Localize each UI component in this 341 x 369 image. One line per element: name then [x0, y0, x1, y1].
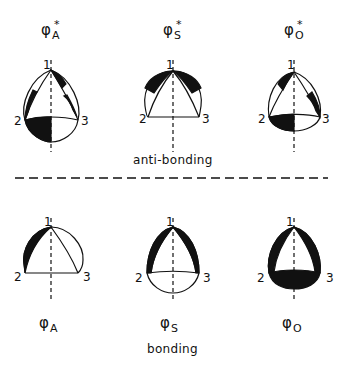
- orbital-shape-phi-A-star: [24, 60, 79, 152]
- orbital-shape-phi-A: [24, 218, 83, 300]
- orbital-shape-phi-S: [147, 218, 199, 302]
- orbital-shape-phi-S-star: [145, 60, 202, 152]
- orbital-shape-phi-O-star: [268, 60, 320, 152]
- orbital-shape-phi-O: [268, 218, 320, 302]
- orbital-diagram: [0, 0, 341, 369]
